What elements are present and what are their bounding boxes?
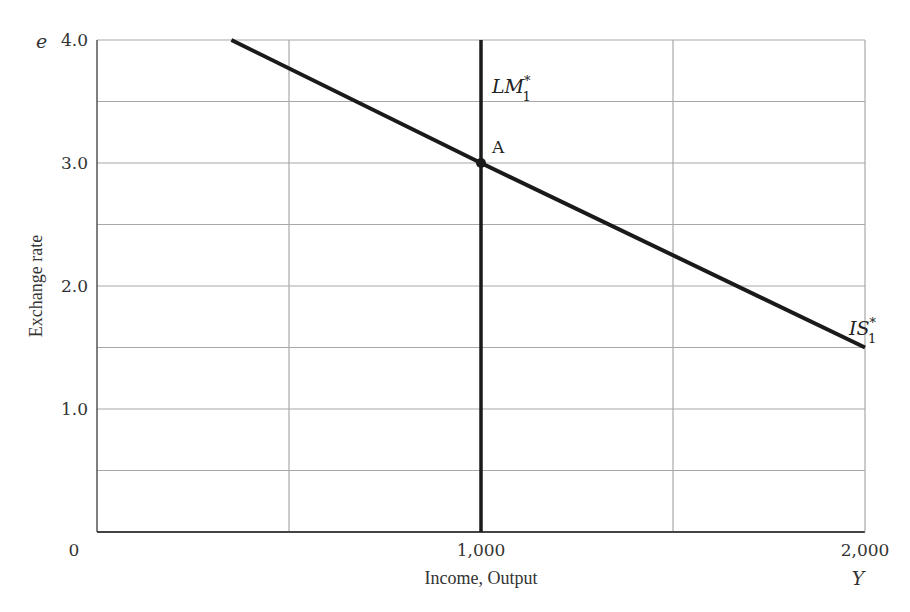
x-tick-label: 0	[69, 540, 80, 560]
is-label-main: IS	[848, 317, 870, 339]
equilibrium-point-marker	[476, 158, 486, 168]
x-tick-label: 2,000	[841, 540, 890, 560]
is-lm-chart: e 1.02.03.04.0 01,0002,000 Exchange rate…	[0, 0, 910, 612]
y-axis-title: Exchange rate	[26, 235, 46, 337]
lm-label-main: LM	[491, 75, 525, 97]
lm-label-star: *	[524, 73, 531, 88]
y-tick-label: 3.0	[61, 153, 88, 173]
y-tick-label: 1.0	[61, 399, 88, 419]
is-label-subscript: 1	[868, 331, 876, 346]
lm-label-subscript: 1	[523, 89, 531, 104]
x-axis-title: Income, Output	[425, 568, 538, 588]
x-axis-variable: Y	[852, 567, 867, 589]
is-label-star: *	[870, 315, 877, 330]
equilibrium-point-label: A	[491, 137, 505, 157]
is-curve	[231, 40, 865, 348]
y-axis-variable: e	[36, 30, 47, 52]
x-axis-ticks: 01,0002,000	[69, 540, 890, 560]
y-tick-label: 4.0	[61, 30, 88, 50]
x-tick-label: 1,000	[457, 540, 506, 560]
y-tick-label: 2.0	[61, 276, 88, 296]
y-axis-ticks: 1.02.03.04.0	[61, 30, 88, 419]
lm-curve-label: LM*1	[491, 73, 531, 104]
